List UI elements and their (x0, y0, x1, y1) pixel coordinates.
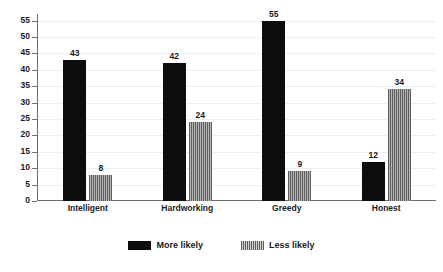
legend-label: More likely (156, 241, 203, 250)
legend-label: Less likely (269, 241, 315, 250)
gridline (38, 103, 436, 104)
bar-hardworking-more-likely (163, 63, 186, 201)
y-axis-tick-label: 45 (8, 48, 30, 57)
y-axis-tick-label: 55 (8, 16, 30, 25)
category-label-hardworking: Hardworking (137, 204, 237, 213)
y-axis-tick-label: 35 (8, 81, 30, 90)
bar-honest-less-likely (388, 89, 411, 201)
gridline (38, 37, 436, 38)
bar-value-label: 42 (157, 52, 192, 61)
legend-item-less-likely: Less likely (241, 241, 315, 250)
legend-swatch-striped (241, 241, 264, 250)
legend-item-more-likely: More likely (128, 241, 203, 250)
bar-hardworking-less-likely (189, 122, 212, 201)
bar-value-label: 12 (356, 151, 391, 160)
y-axis-tick-mark (32, 185, 37, 186)
bar-intelligent-more-likely (63, 60, 86, 201)
bar-value-label: 43 (57, 49, 92, 58)
bar-value-label: 9 (282, 160, 317, 169)
chart-legend: More likelyLess likely (0, 241, 443, 250)
bar-value-label: 24 (183, 111, 218, 120)
y-axis-tick-label: 25 (8, 114, 30, 123)
y-axis-tick-mark (32, 70, 37, 71)
gridline (38, 119, 436, 120)
y-axis-tick-label: 20 (8, 130, 30, 139)
y-axis-tick-mark (32, 86, 37, 87)
y-axis-tick-label: 50 (8, 32, 30, 41)
y-axis-tick-mark (32, 103, 37, 104)
bar-value-label: 8 (83, 164, 118, 173)
gridline (38, 21, 436, 22)
bar-value-label: 34 (382, 78, 417, 87)
y-axis-tick-label: 40 (8, 65, 30, 74)
bar-intelligent-less-likely (89, 175, 112, 201)
y-axis-tick-mark (32, 135, 37, 136)
y-axis-tick-mark (32, 168, 37, 169)
bar-greedy-more-likely (262, 21, 285, 201)
y-axis-tick-label: 30 (8, 98, 30, 107)
y-axis-tick-mark (32, 152, 37, 153)
bar-greedy-less-likely (288, 171, 311, 201)
category-label-intelligent: Intelligent (38, 204, 138, 213)
category-label-greedy: Greedy (237, 204, 337, 213)
category-label-honest: Honest (336, 204, 436, 213)
y-axis-tick-label: 0 (8, 196, 30, 205)
y-axis-tick-mark (32, 37, 37, 38)
gridline (38, 86, 436, 87)
y-axis-tick-label: 10 (8, 163, 30, 172)
bar-chart: 43842245591234 0510152025303540455055 In… (0, 0, 443, 272)
gridline (38, 135, 436, 136)
gridline (38, 70, 436, 71)
y-axis-tick-mark (32, 53, 37, 54)
bar-honest-more-likely (362, 162, 385, 201)
y-axis-tick-mark (32, 119, 37, 120)
plot-area: 43842245591234 (38, 14, 436, 201)
y-axis-tick-mark (32, 21, 37, 22)
y-axis-tick-label: 5 (8, 180, 30, 189)
gridline (38, 53, 436, 54)
y-axis-tick-label: 15 (8, 147, 30, 156)
y-axis-tick-mark (32, 201, 37, 202)
legend-swatch-solid (128, 241, 151, 250)
bar-value-label: 55 (256, 10, 291, 19)
